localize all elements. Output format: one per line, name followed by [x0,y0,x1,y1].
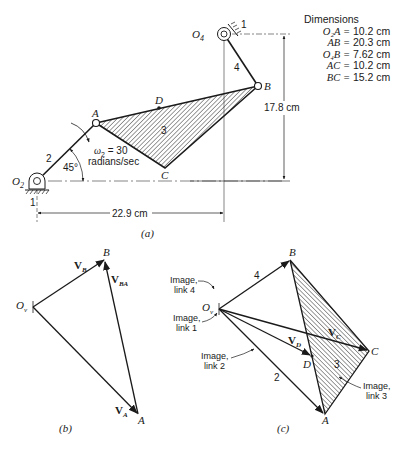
label-a: A [91,107,99,119]
label-link-4-c: 4 [254,270,260,281]
image-link-4 [219,261,289,309]
label-omega-units: radians/sec [88,156,139,167]
label-image-link-3-l2: link 3 [366,391,387,401]
label-ov-b: Ov [16,299,28,314]
label-image-link-4-l2: link 4 [174,285,195,295]
label-b: B [264,80,271,92]
dimensions-table: Dimensions O₂A = 10.2 cm AB = 20.3 cm O₄… [298,14,390,83]
label-image-link-4-l1: Image, [170,275,198,285]
label-vb: VB [74,259,87,274]
label-image-link-1-l2: link 1 [176,323,197,333]
label-b-c: B [289,246,296,258]
label-image-link-2-l2: link 2 [204,361,225,371]
dimension-row: BC = 15.2 cm [298,72,390,84]
label-b-b: B [103,246,110,258]
figure-b-velocity-polygon: Ov B A VB VBA VA (b) [16,246,145,435]
figure-a-mechanism: O2 O4 A D B C 1 1 2 3 4 45° ω2 = 30 radi… [12,19,307,240]
label-image-link-3-l1: Image, [363,381,391,391]
label-c-c: C [371,345,379,357]
label-d: D [154,94,163,106]
figure-c-velocity-image: Ov B C D A 4 2 3 VC VD Image, link 4 Ima… [170,246,391,435]
rocker-link-4 [224,34,258,86]
label-d-c: D [302,358,311,370]
point-d-marker [157,106,161,110]
label-link-3: 3 [161,125,167,136]
label-link-2: 2 [46,153,52,164]
label-o4: O4 [192,28,204,43]
label-ground-1-o4: 1 [241,19,247,30]
caption-c: (c) [277,422,290,435]
label-c: C [161,169,169,181]
label-ground-1: 1 [30,197,36,208]
label-a-c: A [321,414,329,426]
label-image-link-2-l1: Image, [201,351,229,361]
ground-support-o4-icon [218,22,242,41]
label-vba: VBA [111,273,129,288]
label-angle: 45° [63,162,78,173]
label-link-4: 4 [234,62,240,73]
caption-a: (a) [141,227,154,240]
label-o2: O2 [12,175,24,190]
joint-a [93,120,100,127]
caption-b: (b) [59,422,72,435]
label-a-b: A [137,414,145,426]
label-va: VA [115,404,128,419]
label-link-3-c: 3 [334,359,340,370]
label-image-link-1-l1: Image, [173,313,201,323]
label-ov-c: Ov [202,301,214,316]
vector-va [33,307,137,413]
label-dim-vertical: 17.8 cm [264,102,300,113]
label-link-2-c: 2 [274,372,280,383]
label-dim-horizontal: 22.9 cm [112,208,148,219]
vector-vb [33,260,104,307]
joint-b [255,83,262,90]
